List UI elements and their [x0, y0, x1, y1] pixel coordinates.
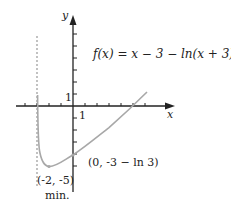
minimum-point — [47, 165, 50, 168]
equation-label: f(x) = x − 3 − ln(x + 3) — [93, 48, 231, 60]
function-graph — [0, 0, 231, 208]
y-intercept-label: (0, -3 − ln 3) — [88, 157, 159, 168]
x-axis-label: x — [167, 109, 173, 120]
minimum-label: (-2, -5) — [37, 175, 74, 186]
minimum-note: min. — [45, 190, 70, 201]
y-axis-label: y — [62, 10, 68, 21]
y-axis-arrow-icon — [70, 15, 77, 25]
y-intercept-point — [71, 153, 74, 156]
y-tick-label: 1 — [65, 92, 72, 103]
equation-text: f(x) = x − 3 − ln(x + 3) — [93, 47, 231, 61]
x-tick-label: 1 — [79, 110, 86, 121]
